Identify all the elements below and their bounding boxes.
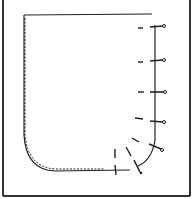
- pin-marks: [115, 28, 144, 158]
- pins: [115, 25, 167, 176]
- pocket-illustration: [0, 0, 193, 199]
- pocket-left-bottom-edge: [24, 15, 130, 171]
- pocket-top-edge: [24, 14, 152, 15]
- stitch-line: [25, 18, 105, 169]
- sewing-diagram: [0, 0, 193, 199]
